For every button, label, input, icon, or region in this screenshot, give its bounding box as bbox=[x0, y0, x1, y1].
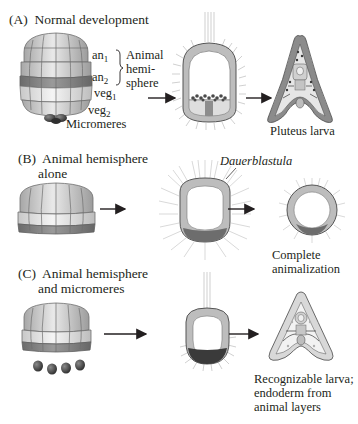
panel-c-blastula bbox=[180, 272, 236, 371]
label-micromeres: Micromeres bbox=[66, 117, 126, 131]
label-pluteus-larva: Pluteus larva bbox=[270, 124, 335, 138]
label-recognizable-larva: Recognizable larva; endoderm from animal… bbox=[254, 372, 354, 414]
recognizable-larva bbox=[269, 292, 333, 360]
panel-c-title: (C) Animal hemisphere and micromeres bbox=[18, 266, 148, 296]
label-veg1: veg1 bbox=[94, 86, 117, 100]
label-complete-animalization: Complete animalization bbox=[272, 248, 340, 276]
label-an1: an1 bbox=[92, 48, 108, 62]
panel-a-mesenchyme-blastula bbox=[172, 12, 246, 130]
dauerblastula bbox=[159, 160, 251, 260]
panel-b-animal-half bbox=[18, 183, 95, 234]
panel-c-animal-half bbox=[22, 303, 91, 352]
micromeres-isolated bbox=[33, 360, 85, 375]
panel-a-embryo-64-cell bbox=[20, 33, 92, 124]
panel-a-title: (A) Normal development bbox=[9, 12, 149, 27]
label-an2: an2 bbox=[92, 70, 108, 84]
animalized-embryo bbox=[279, 178, 345, 243]
label-dauerblastula: Dauerblastula bbox=[220, 154, 292, 168]
pluteus-larva bbox=[268, 36, 333, 123]
panel-b-title: (B) Animal hemisphere alone bbox=[18, 151, 148, 181]
label-veg2: veg2 bbox=[88, 103, 111, 117]
label-animal-hemisphere: Animal hemi- sphere bbox=[126, 48, 164, 90]
panel-a-bracket bbox=[116, 50, 123, 85]
figure-canvas bbox=[0, 0, 358, 424]
